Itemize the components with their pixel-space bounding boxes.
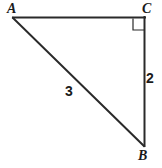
vertex-label-b: B [138,149,147,163]
side-length-label-cb: 2 [146,71,154,85]
right-angle-marker-icon [133,19,144,31]
triangle-drawing [0,0,162,168]
side-ab-hypotenuse-line [13,18,144,146]
side-length-label-ab: 3 [65,84,73,98]
vertex-label-c: C [142,2,151,16]
vertex-label-a: A [7,2,16,16]
triangle-figure: A C B 2 3 [0,0,162,168]
